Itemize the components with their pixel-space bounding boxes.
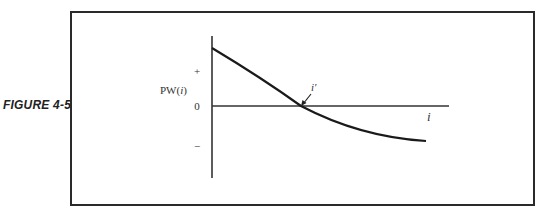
y-axis-label: PW(i) [160,84,187,97]
tick-plus: + [194,65,200,77]
crossing-label: i′ [311,81,317,93]
pw-curve [212,48,426,141]
x-axis-label: i [427,109,431,124]
pw-chart: + 0 − PW(i) i i′ [0,0,541,214]
tick-minus: − [194,140,200,152]
tick-zero: 0 [194,100,200,112]
